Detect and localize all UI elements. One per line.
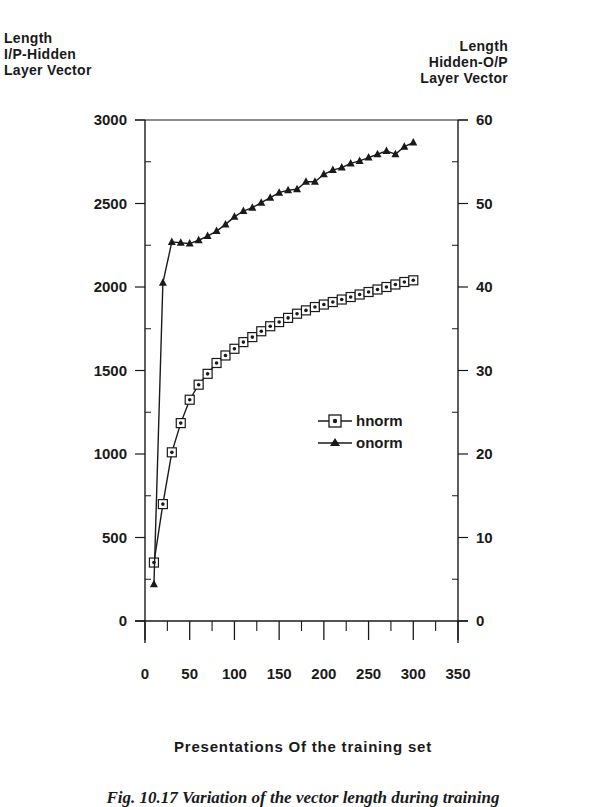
x-tick-label: 300: [401, 665, 426, 682]
chart-legend: hnorm onorm: [318, 410, 403, 454]
data-point-onorm: [204, 232, 212, 240]
chart-series: [149, 138, 417, 587]
right-y-tick-label: 50: [476, 195, 493, 212]
data-point-onorm: [302, 177, 310, 185]
data-point-onorm: [311, 177, 319, 185]
data-point-onorm: [266, 193, 274, 201]
x-tick-label: 0: [141, 665, 149, 682]
left-y-tick-label: 3000: [94, 111, 127, 128]
left-y-tick-label: 1500: [94, 362, 127, 379]
series-line-onorm: [154, 143, 413, 585]
chart-plot: 0500100015002000250030000102030405060050…: [0, 0, 606, 807]
left-y-tick-label: 2000: [94, 278, 127, 295]
left-y-tick-label: 1000: [94, 445, 127, 462]
legend-label-onorm: onorm: [356, 432, 403, 454]
left-y-tick-label: 500: [102, 529, 127, 546]
data-point-onorm: [213, 227, 221, 235]
data-point-onorm: [221, 220, 229, 228]
chart-axes: 0500100015002000250030000102030405060050…: [94, 111, 493, 682]
data-point-onorm: [257, 198, 265, 206]
x-tick-label: 150: [267, 665, 292, 682]
data-point-onorm: [230, 212, 238, 220]
left-y-tick-label: 0: [119, 612, 127, 629]
x-axis-title: Presentations Of the training set: [0, 738, 606, 755]
square-dot-marker-icon: [318, 413, 352, 429]
x-tick-label: 50: [181, 665, 198, 682]
data-point-onorm: [150, 580, 158, 588]
triangle-marker-icon: [318, 435, 352, 451]
left-y-tick-label: 2500: [94, 195, 127, 212]
data-point-onorm: [293, 185, 301, 193]
data-point-onorm: [409, 138, 417, 146]
right-y-tick-label: 20: [476, 445, 493, 462]
x-tick-label: 250: [356, 665, 381, 682]
legend-item-onorm: onorm: [318, 432, 403, 454]
data-point-onorm: [248, 203, 256, 211]
right-y-tick-label: 30: [476, 362, 493, 379]
x-tick-label: 350: [445, 665, 470, 682]
data-point-onorm: [168, 237, 176, 245]
legend-label-hnorm: hnorm: [356, 410, 403, 432]
right-y-tick-label: 40: [476, 278, 493, 295]
figure-caption: Fig. 10.17 Variation of the vector lengt…: [0, 788, 606, 807]
data-point-onorm: [382, 146, 390, 154]
x-tick-label: 100: [222, 665, 247, 682]
legend-item-hnorm: hnorm: [318, 410, 403, 432]
x-tick-label: 200: [311, 665, 336, 682]
right-y-tick-label: 60: [476, 111, 493, 128]
right-y-tick-label: 0: [476, 612, 484, 629]
right-y-tick-label: 10: [476, 529, 493, 546]
data-point-onorm: [159, 278, 167, 286]
